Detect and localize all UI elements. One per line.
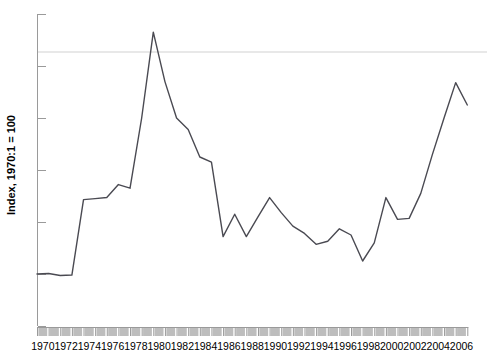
x-axis-band xyxy=(85,327,94,336)
x-axis-band xyxy=(236,327,245,336)
x-tick-label: 1984 xyxy=(194,340,217,352)
x-axis-band xyxy=(62,327,71,336)
x-axis-band xyxy=(306,327,315,336)
x-axis-band xyxy=(108,327,117,336)
x-tick-label: 1990 xyxy=(264,340,287,352)
x-axis-band xyxy=(271,327,280,336)
x-axis-band xyxy=(120,327,129,336)
x-tick-label: 1974 xyxy=(78,340,101,352)
x-axis-band xyxy=(434,327,443,336)
x-axis-band xyxy=(294,327,303,336)
x-tick-label: 2000 xyxy=(380,340,403,352)
x-tick-label: 2004 xyxy=(427,340,450,352)
x-axis-band xyxy=(97,327,106,336)
x-axis-band xyxy=(166,327,175,336)
x-tick-label: 1978 xyxy=(124,340,147,352)
x-axis-band xyxy=(283,327,292,336)
plot-area xyxy=(0,0,495,358)
x-axis-band xyxy=(224,327,233,336)
x-axis-band xyxy=(445,327,454,336)
x-axis-band xyxy=(352,327,361,336)
x-tick-label: 1972 xyxy=(54,340,77,352)
x-axis-band xyxy=(38,327,47,336)
x-axis-band xyxy=(155,327,164,336)
x-axis-band xyxy=(422,327,431,336)
x-axis-band xyxy=(457,327,466,336)
x-axis-band xyxy=(201,327,210,336)
x-tick-label: 1998 xyxy=(357,340,380,352)
x-tick-label: 1976 xyxy=(101,340,124,352)
x-axis-band xyxy=(73,327,82,336)
x-tick-label: 1994 xyxy=(310,340,333,352)
x-axis-band xyxy=(411,327,420,336)
x-axis-band xyxy=(341,327,350,336)
x-axis-band xyxy=(318,327,327,336)
x-axis-band xyxy=(143,327,152,336)
x-tick-label: 2002 xyxy=(403,340,426,352)
x-axis-band xyxy=(131,327,140,336)
x-tick-label: 1986 xyxy=(217,340,240,352)
x-axis-band xyxy=(399,327,408,336)
x-axis-band xyxy=(213,327,222,336)
x-axis-band xyxy=(178,327,187,336)
x-axis-band xyxy=(50,327,59,336)
x-tick-label: 1996 xyxy=(334,340,357,352)
x-axis-band xyxy=(376,327,385,336)
x-tick-label: 1980 xyxy=(147,340,170,352)
x-axis-band xyxy=(248,327,257,336)
x-axis-band xyxy=(364,327,373,336)
x-axis-band xyxy=(259,327,268,336)
x-tick-label: 2006 xyxy=(450,340,473,352)
x-axis-band xyxy=(387,327,396,336)
x-tick-label: 1970 xyxy=(31,340,54,352)
x-tick-label: 1992 xyxy=(287,340,310,352)
x-axis-band xyxy=(329,327,338,336)
line-chart: Index, 1970:1 = 100 0100200300400500600 … xyxy=(0,0,495,358)
data-series-line xyxy=(37,32,467,275)
x-tick-label: 1982 xyxy=(171,340,194,352)
x-tick-label: 1988 xyxy=(240,340,263,352)
x-axis-band xyxy=(190,327,199,336)
